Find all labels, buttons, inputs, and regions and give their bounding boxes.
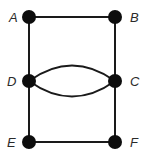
label-c: C	[130, 74, 140, 89]
node-e	[22, 135, 36, 149]
graph-diagram: A B D C E F	[0, 0, 147, 159]
label-b: B	[130, 10, 139, 25]
label-e: E	[7, 135, 16, 150]
label-a: A	[8, 10, 18, 25]
edge-d-c-upper-arc	[29, 66, 115, 82]
node-a	[22, 10, 36, 24]
node-b	[108, 10, 122, 24]
node-f	[108, 135, 122, 149]
label-f: F	[130, 135, 139, 150]
node-d	[22, 74, 36, 88]
edge-d-c-lower-arc	[29, 81, 115, 97]
edges	[29, 17, 115, 142]
nodes	[22, 10, 122, 149]
label-d: D	[7, 74, 16, 89]
node-c	[108, 74, 122, 88]
